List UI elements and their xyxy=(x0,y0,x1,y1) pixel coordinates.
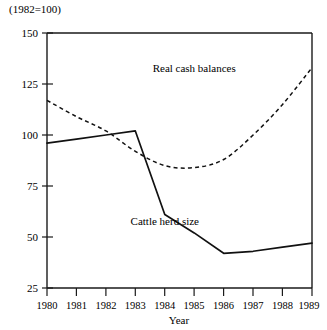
series-line-cattle-herd-size xyxy=(47,131,312,253)
x-axis-ticks xyxy=(47,288,312,296)
y-tick-label: 50 xyxy=(27,231,39,243)
x-tick-label: 1981 xyxy=(66,300,87,311)
series-label-real-cash-balances: Real cash balances xyxy=(153,62,236,74)
x-tick-label: 1985 xyxy=(184,300,205,311)
x-tick-label: 1988 xyxy=(272,300,293,311)
y-tick-label: 125 xyxy=(22,78,39,90)
y-tick-label: 150 xyxy=(22,27,39,39)
x-tick-label: 1989 xyxy=(299,300,320,311)
x-tick-label: 1987 xyxy=(243,300,264,311)
chart-figure: (1982=100) 150 125 100 75 50 25 xyxy=(0,0,327,330)
y-tick-label: 75 xyxy=(27,180,39,192)
x-tick-label: 1982 xyxy=(95,300,116,311)
y-tick-label: 100 xyxy=(22,129,39,141)
x-axis-tick-labels: 1980 1981 1982 1983 1984 1985 1986 1987 … xyxy=(37,300,320,311)
series-label-cattle-herd-size: Cattle herd size xyxy=(131,215,200,227)
y-tick-label: 25 xyxy=(27,282,39,294)
x-tick-label: 1986 xyxy=(213,300,234,311)
x-tick-label: 1983 xyxy=(125,300,146,311)
x-axis-title: Year xyxy=(169,314,190,326)
x-tick-label: 1984 xyxy=(154,300,176,311)
line-chart-plot: 150 125 100 75 50 25 1980 1981 1982 1983 xyxy=(0,0,327,330)
series-line-real-cash-balances xyxy=(47,68,312,168)
x-tick-label: 1980 xyxy=(37,300,58,311)
y-axis-tick-labels: 150 125 100 75 50 25 xyxy=(22,27,39,294)
